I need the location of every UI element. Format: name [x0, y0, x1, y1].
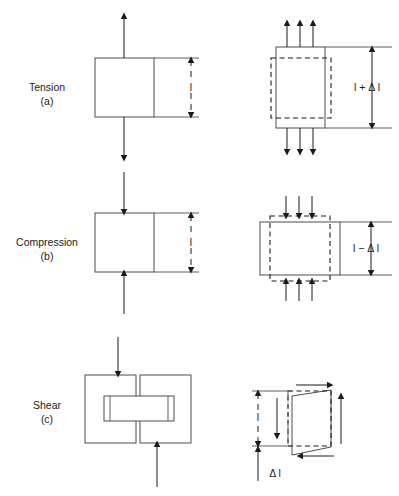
row-compression: Compression (b) l l − Δ l — [16, 172, 392, 314]
compression-dim-label-l: l — [190, 236, 192, 248]
diagram-canvas: Tension (a) l l + Δ l — [0, 0, 399, 496]
tension-square — [95, 58, 154, 117]
shear-dim-label-l: l — [257, 411, 259, 423]
row-label-tension: Tension — [29, 81, 65, 93]
shear-connecting-bar — [104, 396, 174, 421]
tension-dim-label-l: l — [190, 81, 192, 93]
row-sublabel-compression: (b) — [41, 250, 54, 262]
compression-deformed-body: l − Δ l — [260, 196, 392, 301]
compression-deformed-rect — [260, 222, 340, 275]
stress-deformation-figure: Tension (a) l l + Δ l — [0, 0, 399, 496]
row-sublabel-tension: (a) — [41, 95, 54, 107]
shear-deformed-body: l Δ l — [252, 385, 341, 481]
row-tension: Tension (a) l l + Δ l — [29, 16, 392, 158]
shear-assembly — [85, 337, 191, 487]
compression-square — [95, 213, 154, 272]
row-sublabel-shear: (c) — [41, 413, 53, 425]
shear-parallelogram — [292, 390, 331, 455]
shear-delta-dim-label: Δ l — [269, 467, 281, 479]
row-shear: Shear (c) l Δ l — [33, 337, 341, 487]
tension-deformed-rect — [276, 47, 325, 128]
row-label-compression: Compression — [16, 236, 78, 248]
compression-undeformed-body: l — [95, 172, 199, 314]
row-label-shear: Shear — [33, 399, 62, 411]
tension-deformed-body: l + Δ l — [271, 23, 392, 152]
compression-deformed-dim-label: l − Δ l — [353, 242, 379, 254]
tension-undeformed-body: l — [95, 16, 199, 158]
tension-deformed-dim-label: l + Δ l — [354, 81, 380, 93]
